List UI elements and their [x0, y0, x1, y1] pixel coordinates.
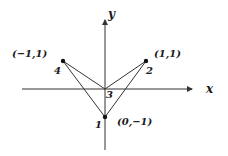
y-axis-label: y [107, 7, 116, 21]
coord-label-4: (−1,1) [12, 48, 48, 60]
point-label-1: 1 [95, 119, 102, 130]
segment-4-3 [63, 61, 105, 89]
coordinate-diagram: x y (−1,1) 4 (1,1) 2 3 1 (0,−1) [0, 0, 228, 156]
segment-2-3 [105, 61, 146, 89]
point-1 [103, 115, 107, 119]
point-4 [61, 59, 65, 63]
coord-label-1: (0,−1) [117, 116, 153, 128]
point-label-2: 2 [145, 65, 153, 76]
x-axis-label: x [205, 82, 214, 96]
point-label-3: 3 [106, 89, 113, 100]
point-2 [144, 59, 148, 63]
point-label-4: 4 [54, 65, 61, 76]
coord-label-2: (1,1) [154, 48, 181, 60]
